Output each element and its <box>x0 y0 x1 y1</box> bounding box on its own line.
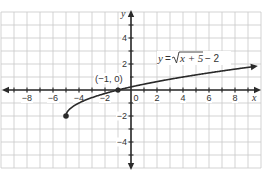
y-tick-label: −4 <box>117 137 127 147</box>
y-axis-up-arrow-icon <box>128 10 134 17</box>
x-tick-label: 8 <box>232 93 237 103</box>
y-tick-label: 4 <box>122 33 127 43</box>
y-axis-down-arrow-icon <box>128 163 134 170</box>
function-graph: −8−6−4−20246842−2−4 x y (−1, 0) y = x + … <box>0 0 264 173</box>
equation-radicand: x + 5 <box>179 52 204 64</box>
x-tick-label: −6 <box>48 93 58 103</box>
y-tick-label: −2 <box>117 111 127 121</box>
x-tick-label: 6 <box>206 93 211 103</box>
x-tick-label: 4 <box>180 93 185 103</box>
x-intercept-point <box>115 87 120 92</box>
equation-lhs: y <box>157 52 163 64</box>
y-tick-label: 2 <box>122 59 127 69</box>
x-tick-label: 0 <box>133 93 138 103</box>
point-label: (−1, 0) <box>95 73 123 84</box>
x-tick-label: 2 <box>154 93 159 103</box>
x-tick-label: −8 <box>22 93 32 103</box>
x-axis-label: x <box>251 92 257 103</box>
curve-arrow-icon <box>250 64 257 70</box>
equation-label: y = x + 5 − 2 <box>157 51 231 65</box>
y-axis-label: y <box>120 8 126 19</box>
equation-equals: = <box>165 53 171 64</box>
equation-rest: − 2 <box>205 53 220 64</box>
x-axis-left-arrow-icon <box>2 87 9 93</box>
start-point <box>63 113 69 119</box>
